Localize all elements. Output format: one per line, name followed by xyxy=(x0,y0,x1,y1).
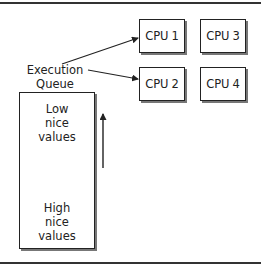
arrow-queue-to-cpu-1 xyxy=(62,38,138,64)
connector-arrows xyxy=(0,0,261,269)
arrow-queue-to-cpu-2 xyxy=(88,70,138,79)
